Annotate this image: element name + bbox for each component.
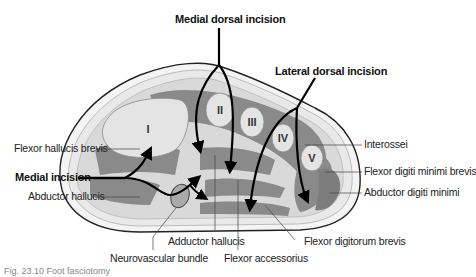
label-medial-incision: Medial incision bbox=[15, 171, 91, 183]
label-flexor-accessorius: Flexor accessorius bbox=[224, 252, 308, 264]
label-adductor-hallucis: Adductor hallucis bbox=[168, 235, 245, 247]
label-lateral-dorsal-incision: Lateral dorsal incision bbox=[275, 65, 387, 77]
bone-label-II: II bbox=[217, 104, 223, 116]
bone-label-III: III bbox=[247, 116, 256, 128]
label-medial-dorsal-incision: Medial dorsal incision bbox=[175, 13, 286, 25]
label-flexor-digitorum-brevis: Flexor digitorum brevis bbox=[304, 235, 406, 247]
label-flexor-digiti-minimi-brevis: Flexor digiti minimi brevis bbox=[364, 165, 476, 177]
label-interossei: Interossei bbox=[364, 138, 408, 150]
label-abductor-digiti-minimi: Abductor digiti minimi bbox=[364, 186, 459, 198]
label-neurovascular-bundle: Neurovascular bundle bbox=[110, 252, 208, 264]
figure-caption: Fig. 23.10 Foot fasciotomy bbox=[4, 266, 110, 276]
bone-label-I: I bbox=[146, 123, 149, 135]
label-flexor-hallucis-brevis: Flexor hallucis brevis bbox=[14, 142, 108, 154]
bone-label-V: V bbox=[308, 152, 316, 164]
bone-label-IV: IV bbox=[278, 132, 289, 144]
label-abductor-hallucis: Abductor hallucis bbox=[28, 190, 105, 202]
